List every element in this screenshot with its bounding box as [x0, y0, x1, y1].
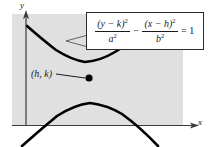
equation-second-denominator: b2: [154, 32, 166, 44]
equation-first-denominator-exponent: 2: [113, 32, 116, 39]
equation-first-numerator: (y − k)2: [95, 18, 130, 31]
equation-first-numerator-text: (y − k): [97, 19, 124, 30]
equation-second-numerator-exponent: 2: [172, 17, 175, 24]
equation-first-fraction: (y − k)2 a2: [95, 18, 130, 44]
center-point-label: (h, k): [31, 68, 52, 79]
y-axis-label: y: [20, 0, 24, 10]
hyperbola-figure: y x (h, k) (y − k)2 a2 − (x − h)2 b2 = 1: [0, 0, 211, 147]
equation-second-fraction: (x − h)2 b2: [142, 18, 177, 44]
equation-second-numerator: (x − h)2: [142, 18, 177, 31]
equation-minus-operator: −: [133, 26, 139, 36]
equation-first-numerator-exponent: 2: [125, 17, 128, 24]
x-axis-label: x: [198, 117, 202, 127]
equation-second-denominator-exponent: 2: [161, 32, 164, 39]
equation-equals-one: = 1: [181, 26, 194, 36]
equation-first-denominator: a2: [106, 32, 118, 44]
center-point-dot: [85, 74, 92, 81]
hyperbola-equation: (y − k)2 a2 − (x − h)2 b2 = 1: [94, 18, 196, 44]
equation-callout-box: (y − k)2 a2 − (x − h)2 b2 = 1: [86, 12, 204, 50]
equation-second-numerator-text: (x − h): [144, 19, 172, 30]
